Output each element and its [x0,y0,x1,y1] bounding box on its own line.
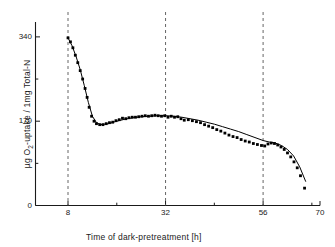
x-axis-label: Time of dark-pretreatment [h] [86,232,202,242]
x-tick-label-56: 56 [252,208,274,217]
figure-container: µg O2-uptake / 1mg Total-N Time of dark-… [0,0,335,247]
y-tick-label-340: 340 [6,32,32,41]
data-points [67,36,306,189]
y-tick-label-170: 170 [6,116,32,125]
y-axis-label-subscript: 2 [27,145,34,149]
y-axis-label-prefix: µg O [22,149,32,168]
dashed-gridlines [68,12,263,206]
trend-line [68,38,306,182]
x-tick-label-8: 8 [57,208,79,217]
y-tick-label-0: 0 [6,201,32,210]
axis-lines [36,22,321,206]
y-axis-label: µg O2-uptake / 1mg Total-N [22,34,34,194]
y-axis-label-suffix: -uptake / 1mg Total-N [22,60,32,145]
x-tick-label-70: 70 [309,208,331,217]
x-tick-label-32: 32 [155,208,177,217]
